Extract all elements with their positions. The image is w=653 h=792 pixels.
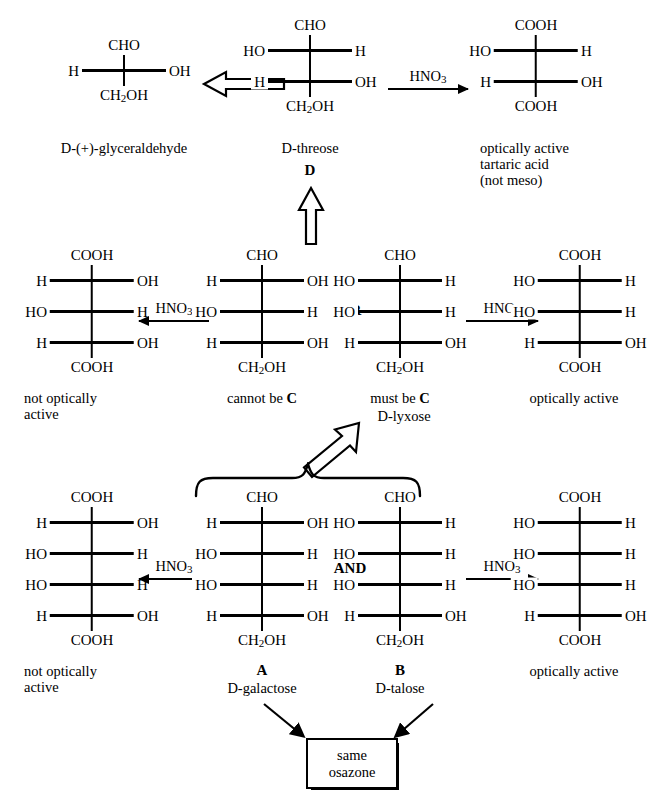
substituent-left: HO xyxy=(22,577,50,592)
substituent-bond xyxy=(216,279,308,281)
stereocenter-row: H OH xyxy=(71,327,114,358)
substituent-bond xyxy=(534,583,626,585)
substituent-right: H xyxy=(622,515,639,530)
stereocenter-row: H OH xyxy=(238,507,286,538)
substituent-bond xyxy=(490,49,582,51)
substituent-bond xyxy=(534,279,626,281)
terminal-top-group: COOH xyxy=(559,248,602,263)
substituent-left: HO xyxy=(330,273,358,288)
caption-d-threose: D-threose xyxy=(281,140,338,156)
terminal-top-group: COOH xyxy=(71,490,114,505)
terminal-top-group: COOH xyxy=(71,248,114,263)
substituent-right: H xyxy=(622,304,639,319)
hollow-arrow-up-deduction-1 xyxy=(296,185,326,247)
substituent-left: HO xyxy=(510,304,538,319)
substituent-left: H xyxy=(521,608,538,623)
substituent-bond xyxy=(534,521,626,523)
substituent-bond xyxy=(534,310,626,312)
reagent-label: HNO3 xyxy=(410,69,447,87)
caption-line-1: not optically xyxy=(24,390,97,406)
substituent-right: OH xyxy=(622,335,650,350)
substituent-bond xyxy=(46,279,138,281)
substituent-bond xyxy=(216,310,308,312)
caption-mid-left-diacid: not optically active xyxy=(24,390,97,422)
substituent-bond xyxy=(216,583,308,585)
label-galactose-letter: A xyxy=(257,662,268,678)
substituent-bond xyxy=(534,552,626,554)
osazone-result-box: same osazone xyxy=(306,738,398,789)
caption-line-2: active xyxy=(24,679,97,695)
substituent-right: OH xyxy=(578,74,606,89)
substituent-right: OH xyxy=(304,273,332,288)
substituent-bond xyxy=(264,49,356,51)
substituent-left: HO xyxy=(330,546,358,561)
stereocenter-row: HO H xyxy=(376,507,424,538)
stereocenter-row: HO H xyxy=(71,569,114,600)
substituent-left: H xyxy=(33,515,50,530)
stereocenter-row: H OH xyxy=(71,507,114,538)
substituent-left: HO xyxy=(510,273,538,288)
substituent-right: H xyxy=(622,577,639,592)
stereocenter-row: HO H xyxy=(559,507,602,538)
substituent-right: H xyxy=(304,546,321,561)
stereocenter-row: HO H xyxy=(71,538,114,569)
caption-line-1: optically active xyxy=(480,140,569,156)
terminal-top-group: CHO xyxy=(238,490,286,505)
substituent-right: OH xyxy=(134,515,162,530)
substituent-bond xyxy=(216,614,308,616)
substituent-right: OH xyxy=(134,335,162,350)
stereocenter-row: HO H xyxy=(286,35,334,66)
stereocenter-row: H OH xyxy=(559,600,602,631)
caption-d-galactose: D-galactose xyxy=(227,680,296,696)
terminal-bottom-group: CH2OH xyxy=(376,633,424,651)
substituent-bond xyxy=(46,521,138,523)
substituent-bond xyxy=(46,583,138,585)
substituent-bond xyxy=(354,614,446,616)
label-d-threose-letter: D xyxy=(305,162,316,178)
substituent-right: OH xyxy=(304,608,332,623)
substituent-bond xyxy=(534,614,626,616)
stereocenter-row: HO H xyxy=(559,538,602,569)
terminal-bottom-group: COOH xyxy=(71,633,114,648)
substituent-left: H xyxy=(33,273,50,288)
substituent-left: HO xyxy=(466,43,494,58)
stereocenter-row: HO H xyxy=(376,569,424,600)
substituent-left: HO xyxy=(192,577,220,592)
substituent-bond xyxy=(354,552,446,554)
stereocenter-row: H OH xyxy=(238,327,286,358)
caption-bottom-right-diacid: optically active xyxy=(530,663,619,679)
terminal-top-group: COOH xyxy=(559,490,602,505)
caption-d-lyxose: D-lyxose xyxy=(377,408,430,424)
substituent-bond xyxy=(46,310,138,312)
stereocenter-row: H OH xyxy=(238,265,286,296)
substituent-right: OH xyxy=(304,335,332,350)
substituent-left: HO xyxy=(330,515,358,530)
arrow-head xyxy=(138,316,149,326)
osazone-line-2: osazone xyxy=(329,764,376,781)
terminal-top-group: CHO xyxy=(238,248,286,263)
structure-bottom-right-diacid: COOH HO H HO H HO H H OH xyxy=(559,490,602,648)
substituent-left: H xyxy=(341,335,358,350)
substituent-left: HO xyxy=(510,546,538,561)
terminal-bottom-group: CH2OH xyxy=(376,360,424,378)
reagent-label: HNO3 xyxy=(156,559,193,577)
substituent-bond xyxy=(216,552,308,554)
caption-line-2: tartaric acid xyxy=(480,156,569,172)
substituent-left: H xyxy=(251,74,268,89)
substituent-right: H xyxy=(304,304,321,319)
substituent-right: H xyxy=(442,577,459,592)
stereocenter-row: HO H xyxy=(238,538,286,569)
stereocenter-row: H OH xyxy=(286,66,334,97)
structure-mid-left-diacid: COOH H OH HO H H OH COOH xyxy=(71,248,114,375)
stereocenter-row: HO H xyxy=(71,296,114,327)
structure-d-lyxose: CHO HO H HO H H OH CH2OH xyxy=(376,248,424,378)
substituent-bond xyxy=(46,552,138,554)
stereocenter-row: HO H xyxy=(376,265,424,296)
structure-d-galactose: CHO H OH HO H HO H H OH xyxy=(238,490,286,651)
connector-and: AND xyxy=(334,560,367,576)
caption-line-1: not optically xyxy=(24,663,97,679)
substituent-left: HO xyxy=(510,577,538,592)
substituent-bond xyxy=(264,80,356,82)
terminal-bottom-group: CH2OH xyxy=(238,360,286,378)
label-talose-letter: B xyxy=(395,662,405,678)
